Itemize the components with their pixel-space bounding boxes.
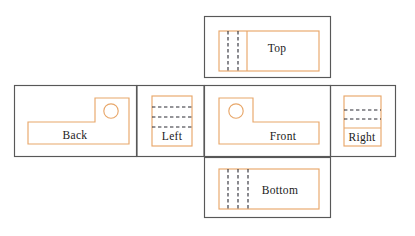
view-label-left: Left: [162, 130, 183, 142]
view-label-right: Right: [348, 131, 376, 144]
view-label-back: Back: [63, 129, 88, 141]
view-label-top: Top: [268, 42, 287, 55]
diagram-background: [0, 0, 415, 236]
view-label-front: Front: [270, 130, 297, 142]
orthographic-projection-diagram: Top Back Left Front: [0, 0, 415, 236]
diagram-canvas: Top Back Left Front: [0, 0, 415, 236]
view-label-bottom: Bottom: [262, 184, 298, 196]
